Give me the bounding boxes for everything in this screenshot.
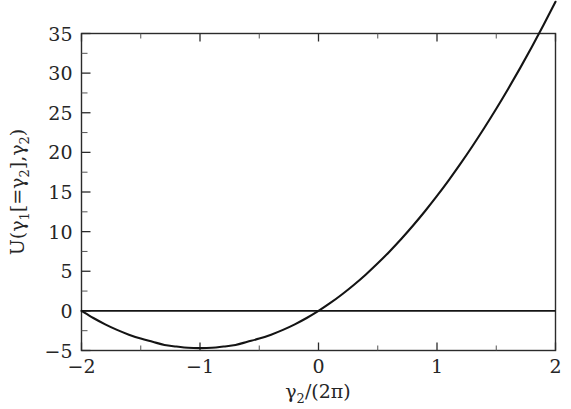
x-tick-label: 2 [549,355,561,377]
y-title-open-paren: ( [6,232,28,239]
y-title-gamma1-sub: 1 [17,212,32,220]
y-tick-label: 0 [60,300,72,322]
y-title-bracket-open: [ [6,205,28,212]
y-tick-label: 30 [48,62,72,84]
x-title-close-paren: ) [343,380,350,402]
y-tick-label: 20 [48,141,72,163]
y-title-u: U [6,239,28,255]
y-title-gamma1: γ [6,221,28,232]
x-title-pi: π [331,380,344,402]
x-title-open-paren: ( [311,380,318,402]
y-tick-label: 5 [60,260,72,282]
x-title-gamma-sub: 2 [297,391,305,406]
y-title-gamma2a: γ [6,178,28,189]
x-title-gamma: γ [285,380,296,402]
x-tick-label: 0 [312,355,324,377]
y-title-close-paren: ) [6,129,28,136]
y-title-bracket-close: ] [6,162,28,169]
y-tick-label: 10 [48,221,72,243]
x-tick-label: −1 [186,355,214,377]
figure-container: −2−1012 −505101520253035 γ2/(2π) U(γ1[=γ… [0,0,571,409]
chart-background [0,0,571,409]
parabola-potential-chart: −2−1012 −505101520253035 γ2/(2π) U(γ1[=γ… [0,0,571,409]
y-title-gamma2a-sub: 2 [17,169,32,177]
y-tick-label: 15 [48,181,72,203]
y-title-equals: = [6,189,28,205]
y-title-gamma2b-sub: 2 [17,136,32,144]
y-tick-label: 35 [48,23,72,45]
y-tick-label: −5 [44,340,72,362]
x-title-two: 2 [319,380,331,402]
y-tick-label: 25 [48,102,72,124]
x-tick-label: 1 [431,355,443,377]
y-title-gamma2b: γ [6,144,28,155]
